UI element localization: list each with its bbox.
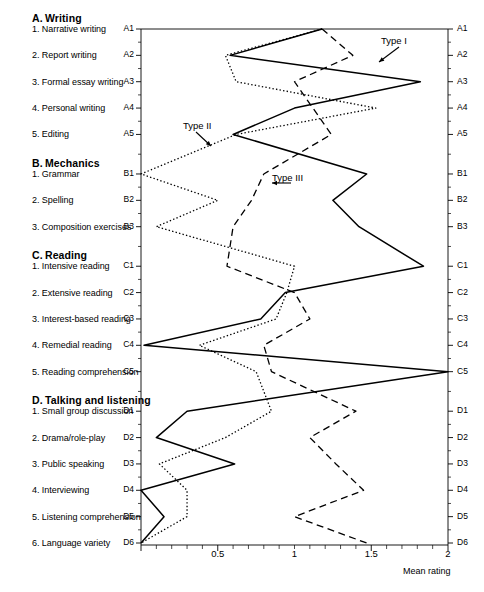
item-label-b2: 2. Spelling: [32, 195, 73, 205]
y-tick-left-c4: C4: [112, 340, 134, 349]
y-tick-right-a4: A4: [457, 103, 479, 112]
y-tick-left-d3: D3: [112, 459, 134, 468]
annotation-arrow-type-1-head: [379, 57, 384, 62]
x-tick-0-5: 0.5: [203, 549, 233, 559]
y-tick-right-b2: B2: [457, 195, 479, 204]
y-tick-left-a4: A4: [112, 103, 134, 112]
item-label-a2: 2. Report writing: [32, 50, 97, 60]
item-label-c1: 1. Intensive reading: [32, 261, 110, 271]
section-letter: A.: [32, 13, 45, 24]
y-tick-right-c5: C5: [457, 367, 479, 376]
y-tick-left-b2: B2: [112, 195, 134, 204]
y-tick-right-a3: A3: [457, 77, 479, 86]
y-tick-right-a5: A5: [457, 129, 479, 138]
y-tick-left-d2: D2: [112, 433, 134, 442]
x-axis-title: Mean rating: [403, 566, 451, 576]
section-letter: B.: [32, 158, 45, 169]
y-tick-left-d4: D4: [112, 485, 134, 494]
y-tick-right-c4: C4: [457, 340, 479, 349]
y-tick-right-b3: B3: [457, 222, 479, 231]
series-label-type-3: Type III: [272, 173, 303, 183]
y-tick-right-c1: C1: [457, 261, 479, 270]
item-label-d3: 3. Public speaking: [32, 459, 104, 469]
item-label-c4: 4. Remedial reading: [32, 340, 112, 350]
section-title: Reading: [45, 249, 87, 261]
item-label-a4: 4. Personal writing: [32, 103, 105, 113]
y-tick-right-d6: D6: [457, 538, 479, 547]
y-tick-left-b1: B1: [112, 169, 134, 178]
annotation-arrow-type-2-head: [206, 141, 211, 146]
y-tick-right-c2: C2: [457, 288, 479, 297]
item-label-c2: 2. Extensive reading: [32, 288, 113, 298]
series-line-type-iii: [227, 29, 367, 543]
item-label-b1: 1. Grammar: [32, 169, 80, 179]
x-tick-2: 2: [433, 549, 463, 559]
y-tick-left-a1: A1: [112, 24, 134, 33]
section-title: Talking and listening: [45, 394, 151, 406]
y-tick-left-c5: C5: [112, 367, 134, 376]
y-tick-right-d1: D1: [457, 406, 479, 415]
y-tick-left-c3: C3: [112, 314, 134, 323]
annotation-arrow-type-1: [379, 47, 399, 62]
y-tick-left-d5: D5: [112, 512, 134, 521]
section-title: Writing: [45, 12, 82, 24]
y-tick-left-a2: A2: [112, 50, 134, 59]
y-tick-left-a3: A3: [112, 77, 134, 86]
y-tick-left-d6: D6: [112, 538, 134, 547]
section-heading-a: A.Writing: [32, 13, 82, 24]
item-label-d6: 6. Language variety: [32, 538, 110, 548]
series-line-type-i: [141, 29, 448, 543]
section-letter: D.: [32, 395, 45, 406]
section-heading-c: C.Reading: [32, 250, 87, 261]
item-label-d2: 2. Drama/role-play: [32, 433, 105, 443]
y-tick-left-b3: B3: [112, 222, 134, 231]
y-tick-right-a1: A1: [457, 24, 479, 33]
y-tick-right-d3: D3: [457, 459, 479, 468]
y-tick-right-b1: B1: [457, 169, 479, 178]
series-label-type-2: Type II: [183, 121, 212, 131]
y-tick-left-c2: C2: [112, 288, 134, 297]
figure-container: A.Writing1. Narrative writing2. Report w…: [0, 0, 484, 592]
x-tick-1: 1: [280, 549, 310, 559]
x-tick-1-5: 1.5: [356, 549, 386, 559]
item-label-a3: 3. Formal essay writing: [32, 77, 123, 87]
y-tick-right-d4: D4: [457, 485, 479, 494]
y-tick-left-a5: A5: [112, 129, 134, 138]
section-heading-b: B.Mechanics: [32, 158, 100, 169]
series-line-type-ii: [141, 29, 376, 543]
y-tick-right-d5: D5: [457, 512, 479, 521]
section-letter: C.: [32, 250, 45, 261]
y-tick-left-d1: D1: [112, 406, 134, 415]
y-tick-right-c3: C3: [457, 314, 479, 323]
item-label-a5: 5. Editing: [32, 129, 69, 139]
y-tick-right-d2: D2: [457, 433, 479, 442]
item-label-d4: 4. Interviewing: [32, 485, 89, 495]
series-label-type-1: Type I: [381, 36, 407, 46]
section-title: Mechanics: [45, 157, 100, 169]
annotation-arrow-type-2: [196, 132, 211, 146]
y-tick-right-a2: A2: [457, 50, 479, 59]
category-label-column: A.Writing1. Narrative writing2. Report w…: [0, 0, 130, 592]
item-label-a1: 1. Narrative writing: [32, 24, 106, 34]
y-tick-left-c1: C1: [112, 261, 134, 270]
